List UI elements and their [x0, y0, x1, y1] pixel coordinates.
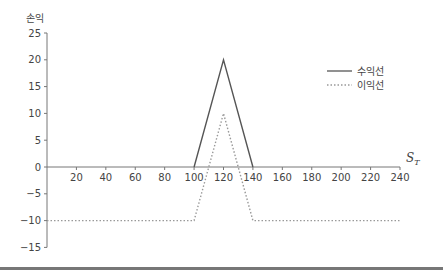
- y-tick-label: −15: [20, 242, 41, 253]
- x-tick-label: 240: [390, 172, 409, 183]
- x-tick-label: 20: [70, 172, 83, 183]
- x-tick-label: 80: [158, 172, 171, 183]
- y-tick-label: 10: [28, 108, 41, 119]
- y-tick-label: 25: [28, 28, 41, 39]
- legend: 수익선 이익선: [327, 66, 384, 91]
- x-tick-label: 60: [129, 172, 142, 183]
- y-axis-title: 손익: [26, 13, 44, 24]
- y-tick-label: −10: [20, 215, 41, 226]
- y-tick-label: 5: [35, 135, 41, 146]
- y-tick-label: −5: [26, 188, 41, 199]
- legend-label-gain-line: 이익선: [357, 80, 384, 91]
- x-tick-label: 40: [99, 172, 112, 183]
- x-tick-label: 160: [273, 172, 292, 183]
- series-layer: [47, 60, 400, 221]
- x-tick-label: 200: [332, 172, 351, 183]
- x-axis: 20406080100120140160180200220240: [47, 167, 410, 183]
- bottom-rule: [0, 267, 443, 270]
- x-tick-label: 140: [243, 172, 262, 183]
- x-tick-label: 220: [361, 172, 380, 183]
- x-tick-label: 180: [302, 172, 321, 183]
- y-tick-label: 15: [28, 81, 41, 92]
- y-tick-label: 20: [28, 54, 41, 65]
- payoff-chart: 2520151050−5−10−15 204060801001201401601…: [0, 0, 443, 273]
- x-axis-title: ST: [406, 151, 420, 167]
- x-tick-label: 100: [185, 172, 204, 183]
- x-tick-label: 120: [214, 172, 233, 183]
- y-axis: 2520151050−5−10−15: [20, 28, 47, 253]
- y-tick-label: 0: [35, 162, 41, 173]
- profit-line-series: [194, 60, 253, 167]
- legend-label-profit-line: 수익선: [357, 66, 384, 77]
